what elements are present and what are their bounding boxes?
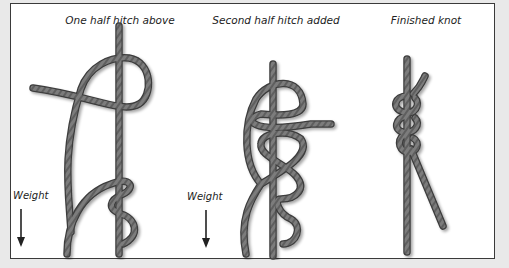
panel-3-knot [396,59,443,252]
panel-2-knot [244,64,331,256]
diagram-frame: One half hitch above Second half hitch a… [10,3,495,259]
panel-1-knot [33,26,148,254]
knot-illustrations [11,4,496,260]
